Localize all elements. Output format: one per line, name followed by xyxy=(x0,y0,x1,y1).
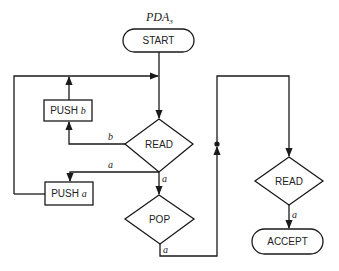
push-b-node: PUSH b xyxy=(44,100,92,121)
edge-label-a-accept: a xyxy=(292,209,297,220)
svg-text:POP: POP xyxy=(149,214,170,225)
edge-label-b: b xyxy=(108,131,113,142)
diagram-title: PDA3 xyxy=(145,10,173,26)
svg-text:PUSH a: PUSH a xyxy=(51,188,87,199)
pop-node: POP xyxy=(125,195,194,244)
svg-text:READ: READ xyxy=(275,176,303,187)
svg-text:READ: READ xyxy=(145,139,173,150)
edge-label-a-pop-out: a xyxy=(163,244,168,255)
edge-read-to-push-b xyxy=(69,122,125,144)
start-label: START xyxy=(143,35,175,46)
edge-junction-to-read-final xyxy=(217,76,289,156)
start-node: START xyxy=(123,29,194,52)
svg-text:PUSH b: PUSH b xyxy=(50,105,86,116)
edge-read-to-push-a xyxy=(70,172,159,181)
edge-label-a-pop: a xyxy=(162,173,167,184)
push-a-node: PUSH a xyxy=(45,182,93,205)
pda-flowchart: PDA3 START PUSH b READ b a a PUSH a xyxy=(0,0,339,271)
read-main-node: READ xyxy=(125,119,193,172)
edge-label-a-push: a xyxy=(108,159,113,170)
svg-text:ACCEPT: ACCEPT xyxy=(267,236,308,247)
read-final-node: READ xyxy=(255,157,323,205)
accept-node: ACCEPT xyxy=(252,229,323,254)
